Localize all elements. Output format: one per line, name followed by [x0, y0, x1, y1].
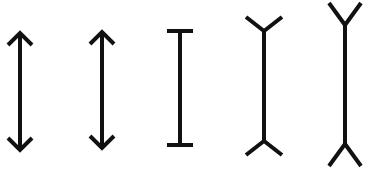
fork-bottom-icon: [329, 144, 361, 166]
diagram-canvas: double-headed arrow (inward arrowheads)d…: [0, 0, 368, 173]
fork-bottom-icon: [246, 141, 282, 155]
figure-double-arrow-2: double-headed arrow (inward arrowheads): [90, 32, 114, 148]
figure-double-arrow-1: double-headed arrow (inward arrowheads): [8, 33, 32, 150]
figure-i-beam-3: line with flat end caps: [167, 31, 193, 145]
figure-fork-4: line with small outward forks: [246, 17, 282, 155]
figure-fork-5: line with large outward forks: [329, 3, 361, 166]
fork-top-icon: [329, 3, 361, 25]
fork-top-icon: [246, 17, 282, 31]
